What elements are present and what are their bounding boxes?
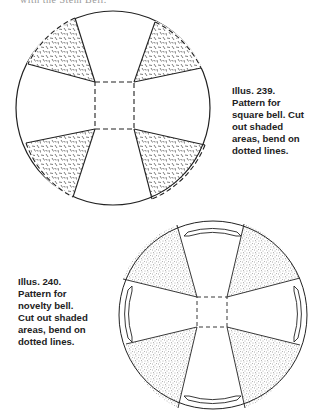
illus-240-novelty-bell-pattern bbox=[119, 221, 307, 409]
illus-239-square-bell-pattern bbox=[16, 11, 210, 205]
caption-line: dotted lines. bbox=[232, 145, 321, 157]
caption-line: square bell. Cut bbox=[232, 109, 321, 121]
bell-pattern-illustrations bbox=[0, 0, 321, 411]
illus-240-caption: Illus. 240. Pattern for novelty bell. Cu… bbox=[18, 276, 108, 348]
caption-line: out shaded bbox=[232, 121, 321, 133]
caption-line: areas, bend on bbox=[232, 133, 321, 145]
caption-line: Illus. 240. bbox=[18, 276, 108, 288]
caption-line: areas, bend on bbox=[18, 324, 108, 336]
caption-line: Pattern for bbox=[18, 288, 108, 300]
caption-line: novelty bell. bbox=[18, 300, 108, 312]
caption-line: Illus. 239. bbox=[232, 85, 321, 97]
caption-line: Cut out shaded bbox=[18, 312, 108, 324]
illus-239-caption: Illus. 239. Pattern for square bell. Cut… bbox=[232, 85, 321, 157]
caption-line: Pattern for bbox=[232, 97, 321, 109]
caption-line: dotted lines. bbox=[18, 336, 108, 348]
